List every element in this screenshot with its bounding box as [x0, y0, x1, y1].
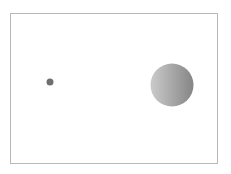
small-sphere — [47, 79, 54, 86]
diagram-canvas — [0, 0, 231, 174]
large-sphere — [151, 64, 194, 107]
